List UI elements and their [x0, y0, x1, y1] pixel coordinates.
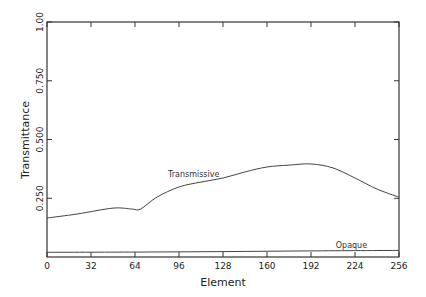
x-tick-label: 32: [85, 261, 96, 271]
y-tick-label: 1.00: [35, 12, 45, 32]
y-tick-label: 0.500: [35, 126, 45, 152]
x-axis-label: Element: [200, 276, 246, 289]
x-tick-label: 192: [302, 261, 319, 271]
x-tick-label: 96: [173, 261, 185, 271]
series-line-opaque: [47, 250, 399, 252]
x-tick-label: 256: [390, 261, 407, 271]
annotation-transmissive: Transmissive: [167, 170, 219, 179]
series-line-transmissive: [47, 164, 399, 218]
y-axis-label: Transmittance: [19, 101, 32, 180]
annotation-opaque: Opaque: [336, 241, 367, 250]
x-tick-label: 224: [346, 261, 363, 271]
x-tick-label: 160: [258, 261, 275, 271]
y-tick-label: 0.750: [35, 68, 45, 94]
y-axis-ticks: 0.2500.5000.7501.00: [35, 12, 399, 211]
chart: 0326496128160192224256 0.2500.5000.7501.…: [0, 0, 426, 297]
series-annotations: TransmissiveOpaque: [167, 170, 367, 250]
x-tick-label: 0: [44, 261, 50, 271]
x-axis-ticks: 0326496128160192224256: [44, 22, 408, 271]
series-lines: [47, 164, 399, 252]
y-tick-label: 0.250: [35, 185, 45, 211]
x-tick-label: 128: [214, 261, 231, 271]
plot-frame: [47, 22, 399, 257]
x-tick-label: 64: [129, 261, 141, 271]
